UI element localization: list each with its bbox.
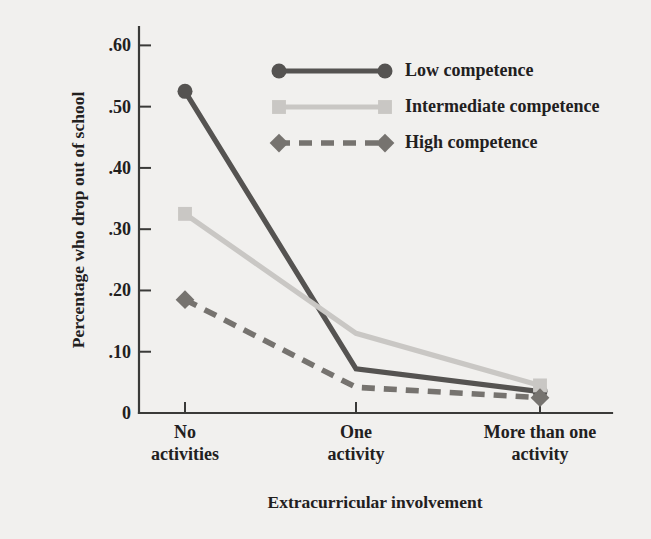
marker-square — [178, 207, 192, 221]
marker-square — [378, 100, 392, 114]
marker-square — [272, 100, 286, 114]
x-tick-label: One — [340, 422, 372, 442]
legend-item[interactable]: High competence — [270, 132, 538, 152]
series-high-competence — [176, 290, 550, 407]
x-axis-ticks: NoactivitiesOneactivityMore than oneacti… — [151, 402, 596, 464]
y-tick-label: .30 — [109, 219, 132, 239]
chart-axes — [139, 27, 612, 413]
legend-label: Low competence — [405, 60, 533, 80]
y-axis-title: Percentage who drop out of school — [68, 92, 88, 349]
chart-figure: 0.10.20.30.40.50.60 NoactivitiesOneactiv… — [0, 0, 651, 539]
y-tick-label: .60 — [109, 35, 132, 55]
marker-diamond — [270, 134, 289, 153]
series-line — [185, 214, 540, 386]
y-tick-label: .40 — [109, 158, 132, 178]
legend-item[interactable]: Intermediate competence — [272, 96, 599, 116]
marker-diamond — [176, 290, 195, 309]
legend-label: Intermediate competence — [405, 96, 599, 116]
legend-label: High competence — [405, 132, 537, 152]
chart-legend: Low competenceIntermediate competenceHig… — [270, 60, 600, 152]
legend-item[interactable]: Low competence — [272, 60, 534, 80]
x-tick-label: activities — [151, 444, 219, 464]
y-tick-label: 0 — [122, 403, 131, 423]
x-tick-label: activity — [328, 444, 385, 464]
series-low-competence — [178, 84, 548, 399]
series-intermediate-competence — [178, 207, 547, 392]
x-axis-title: Extracurricular involvement — [268, 492, 483, 512]
marker-circle — [272, 64, 287, 79]
y-tick-label: .50 — [109, 97, 132, 117]
x-tick-label: No — [174, 422, 196, 442]
marker-circle — [378, 64, 393, 79]
y-tick-label: .20 — [109, 280, 132, 300]
marker-diamond — [376, 134, 395, 153]
y-axis-ticks: 0.10.20.30.40.50.60 — [109, 35, 152, 423]
marker-circle — [178, 84, 193, 99]
x-tick-label: activity — [512, 444, 569, 464]
line-chart: 0.10.20.30.40.50.60 NoactivitiesOneactiv… — [0, 0, 651, 539]
x-tick-label: More than one — [484, 422, 597, 442]
y-tick-label: .10 — [109, 342, 132, 362]
